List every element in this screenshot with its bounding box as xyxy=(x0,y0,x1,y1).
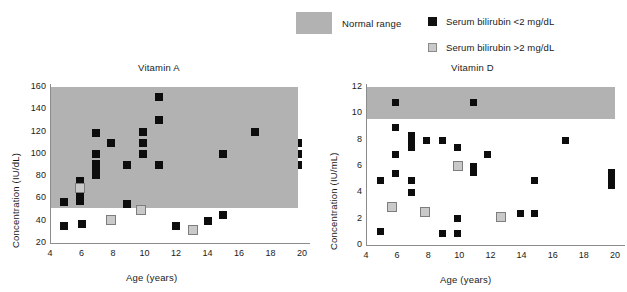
data-point xyxy=(608,182,615,189)
data-point xyxy=(92,171,100,179)
x-axis-tick-label: 4 xyxy=(41,248,59,258)
x-axis-tick-label: 12 xyxy=(482,250,500,260)
data-point xyxy=(155,116,163,124)
data-point xyxy=(92,129,100,137)
y-axis-line xyxy=(366,84,367,245)
y-axis-tick-label: 10 xyxy=(336,107,362,117)
black-square-icon xyxy=(428,17,437,26)
chart-title-vitamin-d: Vitamin D xyxy=(318,62,627,73)
data-point xyxy=(75,183,85,193)
x-axis-tick-label: 6 xyxy=(73,248,91,258)
data-point xyxy=(531,210,538,217)
data-point xyxy=(377,228,384,235)
y-axis-tick-label: 100 xyxy=(20,148,46,158)
x-axis-tick-label: 12 xyxy=(167,248,185,258)
legend-marker-list: Serum bilirubin <2 mg/dL Serum bilirubin… xyxy=(428,11,554,57)
y-axis-tick-label: 12 xyxy=(336,81,362,91)
data-point xyxy=(439,137,446,144)
x-axis-tick-label: 4 xyxy=(357,250,375,260)
y-axis-tick-label: 2 xyxy=(336,213,362,223)
data-point xyxy=(423,137,430,144)
y-axis-tick-label: 80 xyxy=(20,170,46,180)
y-axis-tick-label: 6 xyxy=(336,160,362,170)
data-point xyxy=(251,128,259,136)
x-axis-tick-label: 16 xyxy=(544,250,562,260)
x-axis-tick-label: 8 xyxy=(104,248,122,258)
data-point xyxy=(454,215,461,222)
y-axis-tick-label: 20 xyxy=(20,237,46,247)
data-point xyxy=(92,150,100,158)
y-axis-tick-label: 4 xyxy=(336,186,362,196)
data-point xyxy=(60,222,68,230)
chart-title-vitamin-a: Vitamin A xyxy=(0,62,318,73)
data-point xyxy=(377,177,384,184)
data-point xyxy=(188,225,198,235)
y-axis-tick-label: 40 xyxy=(20,215,46,225)
data-point xyxy=(106,215,116,225)
data-point xyxy=(139,139,147,147)
y-axis-tick-label: 140 xyxy=(20,103,46,113)
x-axis-tick-label: 6 xyxy=(388,250,406,260)
data-point xyxy=(139,128,147,136)
data-point xyxy=(136,205,146,215)
y-axis-line xyxy=(50,84,51,243)
chart-panel-vitamin-a: Vitamin A Concentration (IU/dL) Age (yea… xyxy=(0,58,318,292)
data-point xyxy=(298,150,302,158)
data-point xyxy=(484,151,491,158)
data-point xyxy=(60,198,68,206)
data-point xyxy=(420,207,430,217)
data-point xyxy=(562,137,569,144)
data-point xyxy=(408,144,415,151)
legend-normal-range-label: Normal range xyxy=(342,18,401,29)
gray-square-icon xyxy=(428,43,437,52)
x-axis-tick-label: 18 xyxy=(575,250,593,260)
x-axis-tick-label: 16 xyxy=(230,248,248,258)
data-point xyxy=(470,169,477,176)
data-point xyxy=(298,161,302,169)
x-axis-label-vitamin-d: Age (years) xyxy=(440,274,491,285)
data-point xyxy=(531,177,538,184)
data-point xyxy=(392,170,399,177)
x-axis-tick-label: 14 xyxy=(199,248,217,258)
data-point xyxy=(139,150,147,158)
y-axis-tick-label: 160 xyxy=(20,81,46,91)
data-point xyxy=(517,210,524,217)
data-point xyxy=(454,230,461,237)
data-point xyxy=(219,211,227,219)
y-axis-tick-label: 120 xyxy=(20,126,46,136)
data-point xyxy=(408,177,415,184)
legend-item-label: Serum bilirubin >2 mg/dL xyxy=(446,42,554,53)
data-point xyxy=(123,200,131,208)
legend-item-bilirubin-low: Serum bilirubin <2 mg/dL xyxy=(428,11,554,31)
x-axis-tick-label: 10 xyxy=(136,248,154,258)
data-point xyxy=(496,212,506,222)
data-point xyxy=(392,99,399,106)
legend-item-label: Serum bilirubin <2 mg/dL xyxy=(446,16,554,27)
data-point xyxy=(454,144,461,151)
x-axis-label-vitamin-a: Age (years) xyxy=(126,272,177,283)
data-point xyxy=(172,222,180,230)
data-point xyxy=(204,217,212,225)
data-point xyxy=(439,230,446,237)
x-axis-tick-label: 20 xyxy=(606,250,624,260)
data-point xyxy=(123,161,131,169)
data-point xyxy=(387,202,397,212)
data-point xyxy=(453,161,463,171)
data-point xyxy=(155,93,163,101)
x-axis-line xyxy=(366,245,625,246)
normal-range-swatch xyxy=(296,12,332,34)
chart-panel-vitamin-d: Vitamin D Concentration (IU/mL) Age (yea… xyxy=(318,58,627,292)
normal-range-band xyxy=(366,87,615,119)
figure-root: Normal range Serum bilirubin <2 mg/dL Se… xyxy=(0,0,627,292)
y-axis-tick-label: 60 xyxy=(20,192,46,202)
plot-area-vitamin-d xyxy=(366,87,615,245)
plot-area-vitamin-a xyxy=(50,87,302,243)
data-point xyxy=(78,220,86,228)
x-axis-tick-label: 18 xyxy=(262,248,280,258)
data-point xyxy=(155,161,163,169)
x-axis-tick-label: 14 xyxy=(513,250,531,260)
data-point xyxy=(76,197,84,205)
normal-range-band xyxy=(50,87,298,208)
legend-normal-range: Normal range xyxy=(296,12,401,34)
x-axis-tick-label: 10 xyxy=(450,250,468,260)
